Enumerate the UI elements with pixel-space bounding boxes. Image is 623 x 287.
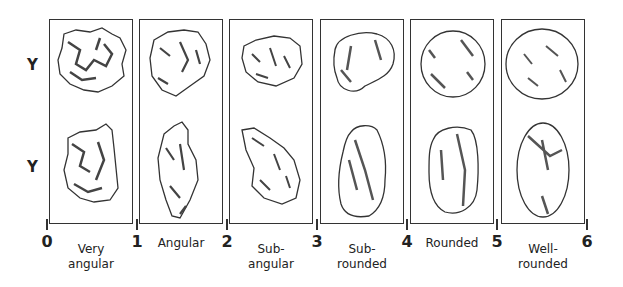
- tick-1: [136, 219, 138, 230]
- grain-drawings-well-rounded: [502, 20, 586, 225]
- grain-drawings-sub-rounded: [321, 20, 405, 225]
- panel-angular: [139, 19, 223, 224]
- panel-rounded: [410, 19, 494, 224]
- panel-very-angular: [49, 19, 133, 224]
- category-sub-rounded: Sub- rounded: [320, 242, 404, 272]
- category-well-rounded: Well- rounded: [501, 242, 585, 272]
- row-label-bottom: Y: [27, 158, 38, 176]
- tick-3: [316, 219, 318, 230]
- grain-drawings-very-angular: [50, 20, 134, 225]
- grain-drawings-rounded: [411, 20, 495, 225]
- grain-drawings-sub-angular: [230, 20, 314, 225]
- tick-6: [586, 219, 588, 230]
- row-label-top: Y: [27, 56, 38, 74]
- category-very-angular: Very angular: [49, 242, 133, 272]
- category-angular: Angular: [139, 236, 223, 251]
- tick-5: [496, 219, 498, 230]
- panel-sub-rounded: [320, 19, 404, 224]
- category-sub-angular: Sub- angular: [229, 242, 313, 272]
- panel-sub-angular: [229, 19, 313, 224]
- tick-4: [406, 219, 408, 230]
- tick-0: [46, 219, 48, 230]
- grain-drawings-angular: [140, 20, 224, 225]
- category-rounded: Rounded: [410, 236, 494, 251]
- tick-2: [226, 219, 228, 230]
- panel-well-rounded: [501, 19, 585, 224]
